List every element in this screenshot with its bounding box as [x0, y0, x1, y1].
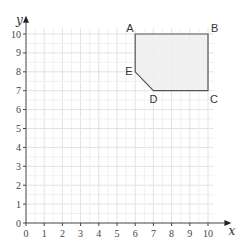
- x-tick-label: 9: [187, 228, 192, 239]
- vertex-label-e: E: [125, 65, 132, 77]
- vertex-label-d: D: [149, 93, 157, 105]
- vertex-label-a: A: [126, 22, 134, 34]
- y-tick-label: 2: [16, 180, 21, 191]
- x-tick-label: 6: [133, 228, 138, 239]
- x-tick-label: 7: [151, 228, 156, 239]
- x-tick-label: 1: [42, 228, 47, 239]
- x-tick-label: 5: [115, 228, 120, 239]
- y-tick-label: 8: [16, 66, 21, 77]
- y-tick-label: 4: [16, 142, 21, 153]
- x-tick-label: 10: [203, 228, 213, 239]
- polygon-abcde: [135, 34, 208, 91]
- x-tick-label: 0: [24, 228, 29, 239]
- y-tick-label: 3: [16, 161, 21, 172]
- x-tick-label: 4: [96, 228, 101, 239]
- coordinate-grid: xy 012345678910012345678910 ABCDE: [0, 0, 241, 244]
- x-tick-label: 2: [60, 228, 65, 239]
- y-axis-arrow-icon: [23, 16, 29, 23]
- vertex-label-b: B: [211, 22, 218, 34]
- y-tick-label: 1: [16, 199, 21, 210]
- y-tick-label: 6: [16, 104, 21, 115]
- y-axis-label: y: [15, 13, 23, 27]
- y-tick-label: 7: [16, 85, 21, 96]
- vertex-label-c: C: [210, 93, 218, 105]
- x-axis-label: x: [228, 224, 235, 238]
- x-tick-label: 8: [169, 228, 174, 239]
- y-tick-label: 10: [11, 29, 21, 40]
- x-tick-label: 3: [78, 228, 83, 239]
- y-tick-label: 0: [16, 218, 21, 229]
- y-tick-label: 9: [16, 47, 21, 58]
- y-tick-label: 5: [16, 123, 21, 134]
